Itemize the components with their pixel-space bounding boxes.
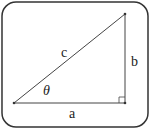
right-triangle-diagram: c b a θ — [0, 0, 150, 129]
label-a: a — [69, 106, 76, 121]
vertex-bottom-left — [13, 102, 16, 105]
vertex-bottom-right — [124, 102, 127, 105]
label-b: b — [131, 54, 138, 69]
vertex-top-right — [124, 13, 127, 16]
label-c: c — [61, 45, 67, 60]
triangle — [14, 14, 125, 103]
label-theta: θ — [43, 83, 50, 98]
